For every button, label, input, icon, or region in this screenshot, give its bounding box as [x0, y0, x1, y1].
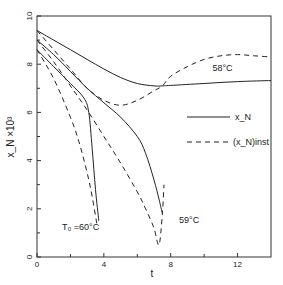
legend: x_N (x_N)inst [187, 112, 270, 147]
y-tick-label: 6 [25, 110, 34, 115]
x-axis-title: t [151, 268, 154, 279]
y-tick-label: 8 [25, 61, 34, 66]
solid-curve [37, 50, 99, 221]
chart: 048120246810 x_N (x_N)inst 58°C59°CT₀ =6… [0, 0, 283, 285]
y-axis-title: x_N ×10³ [5, 116, 16, 158]
y-tick-label: 10 [25, 11, 34, 20]
curve-annotation: 58°C [213, 63, 234, 73]
legend-label-xn: x_N [235, 112, 251, 122]
y-tick-label: 2 [25, 206, 34, 211]
axis-ticks: 048120246810 [25, 11, 243, 269]
dashed-curve [37, 50, 97, 226]
x-tick-label: 4 [102, 260, 107, 269]
y-tick-label: 0 [25, 254, 34, 259]
x-tick-label: 0 [35, 260, 40, 269]
curve-annotation: 59°C [179, 215, 200, 225]
x-tick-label: 12 [233, 260, 242, 269]
curve-annotation: T₀ =60°C [62, 222, 100, 232]
x-tick-label: 8 [168, 260, 173, 269]
solid-curve [37, 31, 271, 87]
dashed-curve [37, 40, 164, 245]
y-tick-label: 4 [25, 158, 34, 163]
dashed-curve [37, 31, 271, 106]
legend-label-xn-inst: (x_N)inst [233, 137, 270, 147]
